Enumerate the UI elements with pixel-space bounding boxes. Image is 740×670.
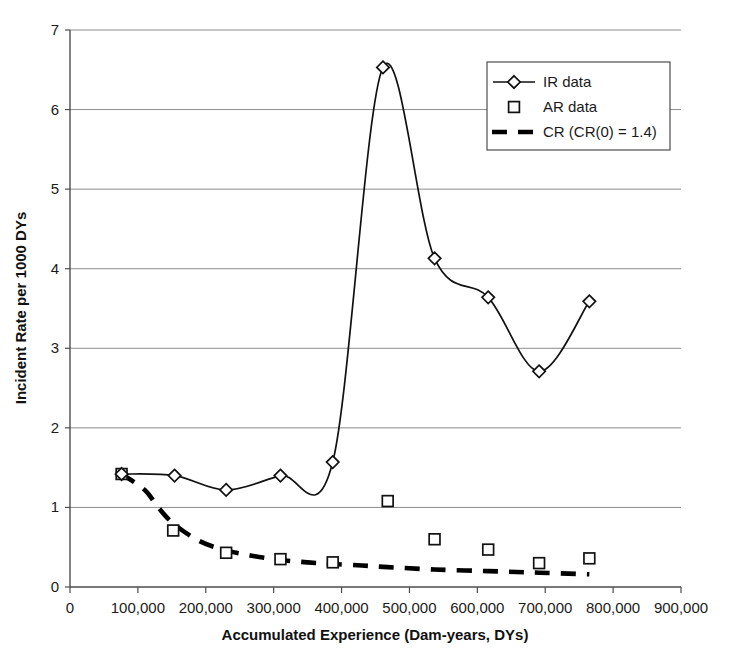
y-tick-label: 0 <box>51 578 59 595</box>
x-tick-label: 600,000 <box>450 599 504 616</box>
y-tick-label: 7 <box>51 21 59 38</box>
ar-data-point <box>483 544 494 555</box>
x-tick-label: 500,000 <box>382 599 436 616</box>
x-tick-label: 100,000 <box>111 599 165 616</box>
x-tick-label: 700,000 <box>518 599 572 616</box>
ir-data-point <box>583 295 595 307</box>
x-tick-label: 300,000 <box>247 599 301 616</box>
ar-data-point <box>534 558 545 569</box>
y-tick-label: 4 <box>51 260 59 277</box>
ar-data-point <box>275 554 286 565</box>
ir-data-point <box>220 484 232 496</box>
x-tick-labels: 0100,000200,000300,000400,000500,000600,… <box>66 599 708 616</box>
ar-data-point <box>221 547 232 558</box>
y-tick-label: 6 <box>51 101 59 118</box>
ir-data-point <box>274 469 286 481</box>
ar-data-point <box>584 553 595 564</box>
y-tick-label: 2 <box>51 419 59 436</box>
x-tick-label: 800,000 <box>586 599 640 616</box>
x-tick-label: 900,000 <box>654 599 708 616</box>
ar-data-point <box>382 496 393 507</box>
legend-square-icon <box>509 102 520 113</box>
chart-container: 01234567 0100,000200,000300,000400,00050… <box>0 0 740 670</box>
y-axis <box>65 30 70 587</box>
ar-data-point <box>429 534 440 545</box>
legend-label: CR (CR(0) = 1.4) <box>543 123 657 140</box>
series-cr-dashed-line <box>122 474 590 574</box>
y-tick-labels: 01234567 <box>51 21 59 595</box>
incident-rate-chart: 01234567 0100,000200,000300,000400,00050… <box>0 0 740 670</box>
ir-data-point <box>168 469 180 481</box>
legend: IR dataAR dataCR (CR(0) = 1.4) <box>487 62 670 150</box>
x-tick-label: 200,000 <box>179 599 233 616</box>
legend-label: IR data <box>543 73 592 90</box>
series-ar-markers <box>116 469 595 569</box>
ar-data-point <box>327 557 338 568</box>
cr-curve <box>122 474 590 574</box>
ir-data-point <box>327 456 339 468</box>
y-tick-label: 1 <box>51 498 59 515</box>
ir-data-point <box>428 252 440 264</box>
legend-label: AR data <box>543 98 598 115</box>
x-tick-label: 400,000 <box>314 599 368 616</box>
x-tick-label: 0 <box>66 599 74 616</box>
y-axis-title: Incident Rate per 1000 DYs <box>12 212 29 405</box>
x-axis-title: Accumulated Experience (Dam-years, DYs) <box>222 626 529 643</box>
y-tick-label: 5 <box>51 180 59 197</box>
ir-data-point <box>533 365 545 377</box>
x-axis <box>70 587 681 593</box>
y-tick-label: 3 <box>51 339 59 356</box>
ar-data-point <box>168 525 179 536</box>
